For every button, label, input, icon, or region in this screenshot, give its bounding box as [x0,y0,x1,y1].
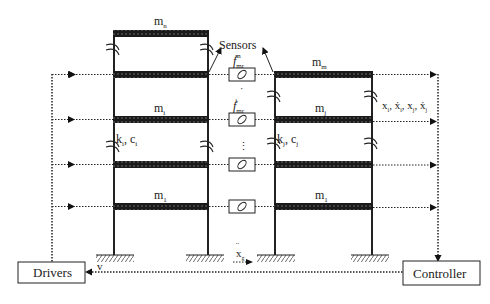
right-stiffness-damping-label: kj, cj [277,132,298,148]
sensors-label: Sensors [219,38,257,52]
left-slab-i [113,116,209,123]
voltage-label: v [97,260,103,272]
right-slab-j-minus [274,161,373,168]
state-vector-label: xi, ẋi, xj, ẋj [382,99,428,113]
damper-3 [209,158,274,171]
ground-acceleration-dots: ¨ [236,240,239,250]
left-top-mass-label: mn [154,14,167,30]
right-ground-hatch-2 [351,255,389,262]
controller-label: Controller [413,266,467,281]
right-top-mass-label: mm [312,55,327,71]
drivers-feedback-lines [52,71,113,263]
damper-force-mid-label: fmri [233,97,245,115]
left-floor-mass-label: mi [154,101,165,117]
right-ground-mass-label: m1 [315,188,328,204]
drivers-label: Drivers [33,265,72,280]
voltage-signal [85,269,403,276]
left-slab-n [113,71,209,78]
left-building [96,30,224,262]
sensor-arrow-right [263,48,273,72]
diagram-canvas: Drivers Controller mn mi m1 ki, ci mm mj… [0,0,490,304]
ellipsis-top: · [240,83,243,94]
left-break-marks [106,44,213,152]
right-slab-j [274,116,373,123]
left-ground-mass-label: m1 [154,188,167,204]
damper-4 [209,200,274,213]
left-slab-1 [113,203,209,210]
damper-force-top-label: fmrm [233,52,245,70]
right-floor-mass-label: mj [315,101,326,117]
right-slab-1 [274,203,373,210]
right-slab-m [274,71,373,78]
left-slab-i-minus [113,161,209,168]
left-ground-hatch-2 [186,255,224,262]
left-stiffness-damping-label: ki, ci [116,132,137,148]
left-slab-top [113,30,209,37]
right-building [257,71,389,262]
right-ground-hatch-1 [257,255,295,262]
ellipsis-mid: ⋮ [238,140,249,152]
